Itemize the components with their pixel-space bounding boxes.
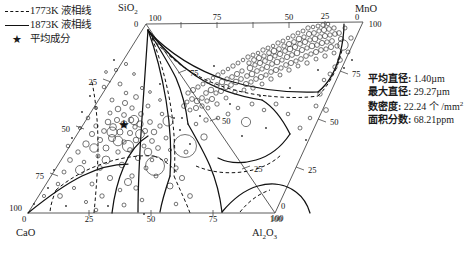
svg-text:★: ★: [118, 117, 130, 132]
tick-left-100: 75: [36, 171, 45, 181]
tick-bottom-25: 25: [85, 214, 94, 224]
tick-topleft-0: 0: [134, 19, 138, 29]
tick-labels: 0 25 50 75 100 0 100 75 50 25 0 100 75 5…: [9, 11, 381, 224]
tick-bottom-75: 75: [209, 214, 218, 224]
tick-bottom-0: 0: [22, 214, 26, 224]
tick-topleft-75: 75: [213, 12, 222, 22]
tick-mid-50: 50: [222, 116, 231, 126]
tick-right-25: 25: [308, 165, 317, 175]
tick-bottomright-0: 0: [281, 201, 285, 211]
axis-frame-left-triangle: [28, 24, 275, 213]
tick-mid-25: 25: [254, 164, 263, 174]
tick-left-50: 50: [62, 124, 71, 134]
tick-right-50: 50: [330, 117, 339, 127]
tick-topleft-50: 50: [285, 12, 294, 22]
tick-topright-25: 25: [321, 11, 330, 21]
tick-left-25: 25: [89, 77, 98, 87]
tick-marks-top-left: [181, 21, 325, 28]
tick-bottomright-100: 100: [271, 213, 284, 223]
tick-topright-0: 0: [355, 12, 359, 22]
tick-left-bottom-100: 100: [9, 203, 22, 213]
tick-right-75: 75: [352, 69, 361, 79]
ternary-diagram-figure: 1773K 液相线 1873K 液相线 ★ 平均成分 SiO2 MnO CaO …: [0, 0, 466, 263]
tick-topleft-100: 100: [149, 13, 162, 23]
tick-marks-left-edge: [50, 79, 111, 176]
average-composition-marker: ★: [118, 117, 130, 132]
liquidus-1873k-curves: [28, 24, 344, 213]
tick-marks-middle-edge: [178, 70, 250, 169]
tick-bottom-50: 50: [147, 214, 156, 224]
tick-topright-100: 100: [369, 19, 382, 29]
tick-marks-right-edge: [296, 71, 348, 170]
diagram-canvas: 0 25 50 75 100 0 100 75 50 25 0 100 75 5…: [0, 0, 466, 263]
